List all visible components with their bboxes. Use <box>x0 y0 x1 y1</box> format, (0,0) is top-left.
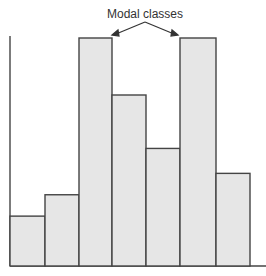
histogram-bar <box>10 216 45 266</box>
bars <box>10 38 250 266</box>
histogram-bar <box>180 38 216 266</box>
histogram-bar <box>112 95 146 266</box>
histogram-bar <box>146 148 180 266</box>
annotation-label: Modal classes <box>107 7 183 21</box>
histogram-bar <box>216 173 250 266</box>
histogram: Modal classes <box>0 0 266 276</box>
histogram-bar <box>45 195 79 266</box>
annotation-arrows <box>112 22 178 36</box>
histogram-bar <box>79 38 112 266</box>
